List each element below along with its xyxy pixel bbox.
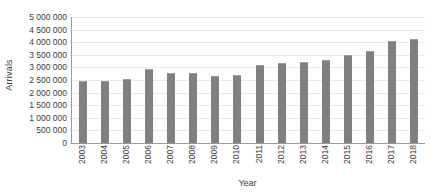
bar-slot: [138, 17, 160, 143]
y-axis-title-label: Arrivals: [4, 59, 14, 91]
x-axis-tick-label: 2011: [254, 145, 263, 163]
bar-slot: [403, 17, 425, 143]
y-axis-tick-label: 3 500 000: [29, 50, 67, 59]
y-axis-tick-labels: 0500 0001 000 0001 500 0002 000 0002 500…: [16, 17, 70, 143]
x-tick-slot: 2014: [314, 145, 336, 177]
x-axis-tick-label: 2018: [408, 145, 417, 164]
bar[interactable]: [344, 55, 352, 143]
y-axis-tick-label: 500 000: [36, 126, 67, 135]
x-axis-tick-label: 2017: [386, 145, 395, 164]
x-axis-tick-label: 2007: [166, 145, 175, 164]
x-axis-tick-label: 2005: [122, 145, 131, 164]
bar-slot: [249, 17, 271, 143]
bar[interactable]: [123, 79, 131, 143]
bar[interactable]: [167, 73, 175, 143]
bar-slot: [204, 17, 226, 143]
bar[interactable]: [211, 76, 219, 143]
y-axis-tick-label: 3 000 000: [29, 63, 67, 72]
bar-slot: [182, 17, 204, 143]
bar-slot: [293, 17, 315, 143]
x-tick-slot: 2008: [181, 145, 203, 177]
y-axis-tick-label: 2 500 000: [29, 76, 67, 85]
bar-slot: [94, 17, 116, 143]
bar[interactable]: [145, 69, 153, 143]
bar[interactable]: [79, 81, 87, 143]
x-axis-title: Year: [71, 178, 424, 188]
bar[interactable]: [410, 39, 418, 143]
bar[interactable]: [278, 63, 286, 143]
bar[interactable]: [300, 62, 308, 143]
x-axis-tick-label: 2014: [320, 145, 329, 164]
bar-slot: [315, 17, 337, 143]
bar-chart: Arrivals 0500 0001 000 0001 500 0002 000…: [0, 0, 431, 193]
x-tick-slot: 2007: [159, 145, 181, 177]
bar-slot: [226, 17, 248, 143]
x-tick-slot: 2015: [336, 145, 358, 177]
x-axis-tick-label: 2009: [210, 145, 219, 164]
x-tick-slot: 2004: [93, 145, 115, 177]
x-axis-tick-label: 2012: [276, 145, 285, 164]
bar[interactable]: [189, 73, 197, 143]
y-axis-tick-label: 1 500 000: [29, 101, 67, 110]
bar-slot: [72, 17, 94, 143]
y-axis-tick-label: 4 500 000: [29, 25, 67, 34]
bar[interactable]: [366, 51, 374, 143]
x-axis-tick-label: 2015: [342, 145, 351, 164]
bar-slot: [359, 17, 381, 143]
x-tick-slot: 2010: [225, 145, 247, 177]
bar-slot: [381, 17, 403, 143]
x-tick-slot: 2012: [270, 145, 292, 177]
bar-slot: [116, 17, 138, 143]
bar-slot: [160, 17, 182, 143]
x-tick-slot: 2006: [137, 145, 159, 177]
x-axis-tick-label: 2003: [78, 145, 87, 164]
x-tick-slot: 2009: [203, 145, 225, 177]
x-tick-slot: 2011: [248, 145, 270, 177]
bar-slot: [271, 17, 293, 143]
x-tick-slot: 2003: [71, 145, 93, 177]
y-axis-tick-label: 0: [62, 139, 67, 148]
bar[interactable]: [322, 60, 330, 143]
bar[interactable]: [233, 75, 241, 143]
x-axis-tick-labels: 2003200420052006200720082009201020112012…: [71, 145, 424, 177]
x-axis-tick-label: 2004: [100, 145, 109, 164]
y-axis-tick-label: 4 000 000: [29, 38, 67, 47]
x-tick-slot: 2018: [402, 145, 424, 177]
x-axis-tick-label: 2010: [232, 145, 241, 164]
x-axis-tick-label: 2008: [188, 145, 197, 164]
x-tick-slot: 2016: [358, 145, 380, 177]
x-axis-tick-label: 2013: [298, 145, 307, 164]
y-axis-tick-label: 1 000 000: [29, 113, 67, 122]
x-axis-title-label: Year: [238, 178, 256, 188]
plot-area: [71, 17, 425, 144]
bar[interactable]: [256, 65, 264, 143]
y-axis-tick-label: 5 000 000: [29, 13, 67, 22]
bar[interactable]: [388, 41, 396, 143]
y-axis-tick-label: 2 000 000: [29, 88, 67, 97]
x-axis-tick-label: 2016: [364, 145, 373, 164]
x-tick-slot: 2013: [292, 145, 314, 177]
x-tick-slot: 2017: [380, 145, 402, 177]
bar[interactable]: [101, 81, 109, 143]
bar-series: [72, 17, 425, 143]
x-tick-slot: 2005: [115, 145, 137, 177]
bar-slot: [337, 17, 359, 143]
x-axis-tick-label: 2006: [144, 145, 153, 164]
